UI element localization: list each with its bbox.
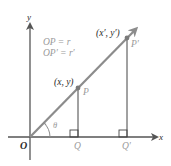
angle-arc-theta: [44, 123, 50, 137]
coord-label-P-prime: (x′, y′): [96, 28, 120, 39]
point-label-Q: Q: [74, 141, 81, 151]
similar-triangles-diagram: y x O OP = r OP′ = r′ (x, y) P (x′, y′) …: [0, 0, 171, 166]
point-P-prime: [125, 36, 130, 41]
equation-OP-prime: OP′ = r′: [43, 48, 76, 58]
point-label-P: P: [82, 87, 89, 97]
point-label-P-prime: P′: [130, 39, 140, 49]
angle-label-theta: θ: [53, 120, 57, 130]
y-axis-label: y: [26, 12, 31, 22]
right-angle-marker-Q-prime: [119, 130, 127, 137]
coord-label-P: (x, y): [54, 77, 74, 88]
origin-label: O: [20, 140, 27, 151]
x-axis-label: x: [158, 132, 163, 142]
equation-OP: OP = r: [43, 37, 71, 47]
point-label-Q-prime: Q′: [122, 141, 132, 151]
right-angle-marker-Q: [70, 130, 78, 137]
point-P: [76, 86, 81, 91]
